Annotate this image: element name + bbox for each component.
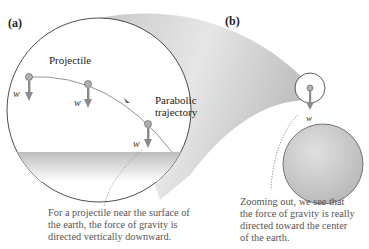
trajectory-label-line1: Parabolic [155,94,197,106]
caption-b-line2: the force of gravity is really [240,208,355,220]
caption-a: For a projectile near the surface of the… [48,207,190,243]
earth-circle [283,124,363,204]
panel-label-a: (a) [8,16,22,31]
caption-b: Zooming out, we see that the force of gr… [240,196,355,244]
caption-b-line3: directed toward the center [240,220,355,232]
weight-vector-label-b: w⃗ [306,113,319,123]
caption-a-line1: For a projectile near the surface of [48,207,190,219]
projectile-label: Projectile [49,54,91,66]
trajectory-label-line2: trajectory [155,106,197,118]
projectile-ball-b [307,85,313,91]
caption-a-line3: directed vertically downward. [48,231,190,243]
caption-b-line4: of the earth. [240,232,355,244]
panel-label-b: (b) [225,14,240,29]
caption-b-line1: Zooming out, we see that [240,196,355,208]
weight-vector-label-2: w⃗ [74,97,88,108]
caption-a-line2: the earth, the force of gravity is [48,219,190,231]
weight-vector-label-3: w⃗ [133,138,147,149]
weight-vector-label-1: w⃗ [13,88,27,99]
